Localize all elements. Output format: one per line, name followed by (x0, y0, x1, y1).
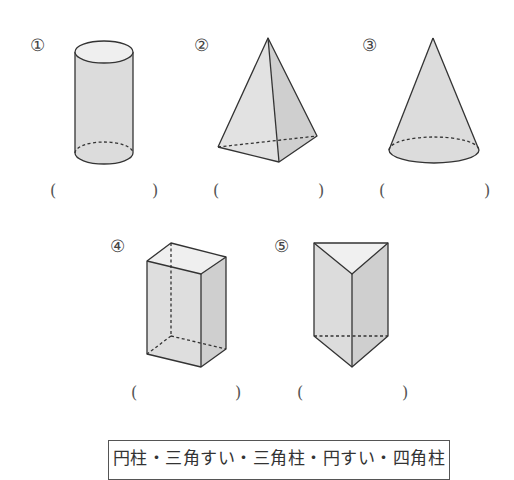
answer-open-paren-5: ( (297, 385, 303, 401)
answer-open-paren-1: ( (50, 183, 56, 199)
answer-close-paren-3: ) (484, 183, 490, 199)
answer-close-paren-5: ) (402, 385, 408, 401)
cylinder-figure (75, 41, 133, 164)
triangular-prism-figure (314, 243, 388, 367)
rectangular-prism-figure (147, 243, 226, 367)
answer-open-paren-2: ( (213, 183, 219, 199)
cone-figure (389, 38, 479, 163)
answer-close-paren-1: ) (152, 183, 158, 199)
answer-open-paren-3: ( (379, 183, 385, 199)
square-pyramid-figure (218, 38, 317, 162)
answer-choices-box: 円柱・三角すい・三角柱・円すい・四角柱 (108, 440, 450, 480)
answer-close-paren-4: ) (235, 385, 241, 401)
answer-close-paren-2: ) (318, 183, 324, 199)
answer-choices-text: 円柱・三角すい・三角柱・円すい・四角柱 (109, 444, 449, 469)
answer-open-paren-4: ( (131, 385, 137, 401)
